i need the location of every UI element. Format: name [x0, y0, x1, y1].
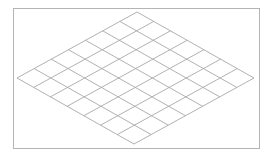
grid-line [134, 78, 254, 144]
isometric-grid [17, 12, 254, 144]
grid-line [103, 31, 220, 97]
grid-line [101, 59, 221, 125]
grid-line [17, 78, 134, 144]
grid-line [86, 40, 203, 106]
grid-line [117, 69, 237, 135]
grid-line [51, 59, 168, 125]
grid-line [17, 12, 137, 78]
grid-line [67, 40, 187, 106]
grid-line [137, 12, 254, 78]
grid-line [34, 21, 154, 87]
diagram-canvas [0, 0, 274, 158]
grid-line [120, 21, 237, 87]
grid-line [84, 50, 204, 116]
grid-line [50, 31, 170, 97]
grid-line [68, 50, 185, 116]
grid-line [34, 69, 151, 135]
